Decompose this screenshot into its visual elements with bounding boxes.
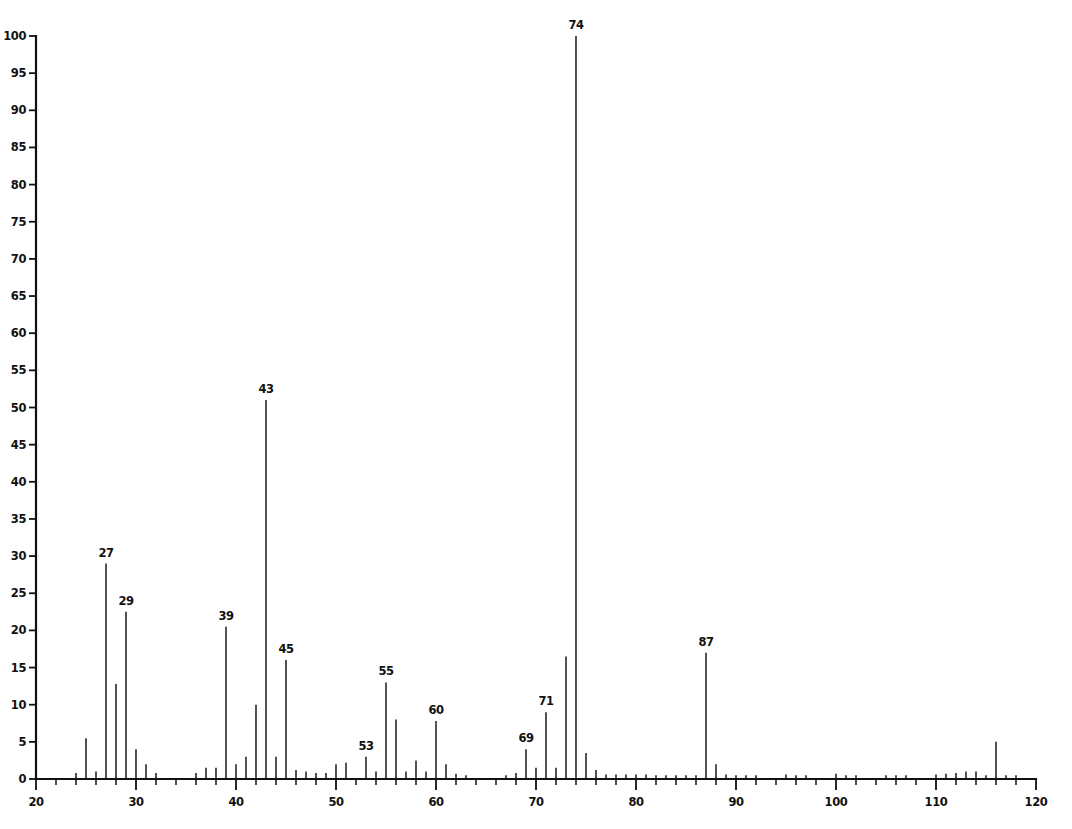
x-tick-label: 120 (1025, 795, 1048, 809)
peak-label-74: 74 (568, 18, 584, 32)
y-tick-label: 75 (11, 215, 27, 229)
y-tick-label: 95 (11, 66, 27, 80)
x-tick-label: 100 (825, 795, 848, 809)
y-tick-label: 65 (11, 289, 27, 303)
peak-label-87: 87 (698, 635, 714, 649)
x-tick-label: 90 (728, 795, 744, 809)
y-tick-label: 15 (11, 661, 27, 675)
x-tick-label: 20 (28, 795, 44, 809)
peak-label-53: 53 (358, 739, 374, 753)
x-tick-label: 70 (528, 795, 544, 809)
x-axis-ticks: 2030405060708090100110120 (28, 779, 1047, 809)
y-tick-label: 80 (11, 178, 27, 192)
x-tick-label: 50 (328, 795, 344, 809)
peak-label-69: 69 (518, 731, 534, 745)
axis-lines (36, 36, 1036, 779)
y-tick-label: 10 (11, 698, 27, 712)
y-tick-label: 0 (18, 772, 26, 786)
peak-label-45: 45 (278, 642, 294, 656)
y-tick-label: 20 (11, 623, 27, 637)
peak-label-29: 29 (118, 594, 134, 608)
peak-label-43: 43 (258, 382, 274, 396)
peak-label-71: 71 (538, 694, 554, 708)
x-tick-label: 60 (428, 795, 444, 809)
y-tick-label: 50 (11, 401, 27, 415)
y-tick-label: 25 (11, 586, 27, 600)
peak-label-55: 55 (378, 664, 394, 678)
x-tick-label: 110 (925, 795, 948, 809)
y-tick-label: 70 (11, 252, 27, 266)
peak-labels-group: 272939434553556069717487 (98, 18, 714, 753)
y-tick-label: 5 (18, 735, 26, 749)
x-tick-label: 30 (128, 795, 144, 809)
peak-label-39: 39 (218, 609, 234, 623)
y-tick-label: 85 (11, 140, 27, 154)
plot-area: 0510152025303540455055606570758085909510… (0, 0, 1072, 829)
mass-spectrum-chart: 0510152025303540455055606570758085909510… (0, 0, 1072, 829)
y-tick-label: 40 (11, 475, 27, 489)
y-tick-label: 55 (11, 363, 27, 377)
y-tick-label: 45 (11, 438, 27, 452)
peak-label-27: 27 (98, 546, 114, 560)
axes-group (36, 36, 1036, 779)
y-axis-ticks: 0510152025303540455055606570758085909510… (3, 29, 36, 786)
x-tick-label: 40 (228, 795, 244, 809)
peak-label-60: 60 (428, 703, 444, 717)
y-tick-label: 60 (11, 326, 27, 340)
x-tick-label: 80 (628, 795, 644, 809)
peaks-group (76, 36, 1016, 779)
y-tick-label: 100 (3, 29, 26, 43)
y-tick-label: 30 (11, 549, 27, 563)
y-tick-label: 35 (11, 512, 27, 526)
y-tick-label: 90 (11, 103, 27, 117)
